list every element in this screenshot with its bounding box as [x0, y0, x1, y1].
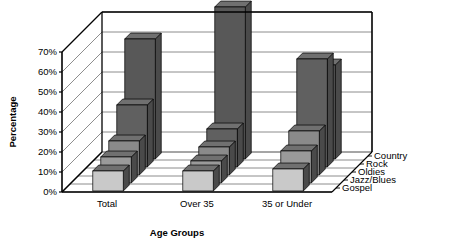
- y-tick-label: 30%: [38, 126, 58, 137]
- y-axis-title: Percentage: [7, 96, 18, 147]
- y-tick-label: 20%: [38, 146, 58, 157]
- bar-gospel-over-35: [183, 165, 220, 191]
- y-tick-label: 60%: [38, 66, 58, 77]
- bar-chart-3d: 0%10%20%30%40%50%60%70%TotalOver 3535 or…: [0, 0, 469, 245]
- chart-container: 0%10%20%30%40%50%60%70%TotalOver 3535 or…: [0, 0, 469, 245]
- y-tick-label: 10%: [38, 166, 58, 177]
- bar-gospel-total: [93, 165, 130, 191]
- x-axis-title: Age Groups: [150, 227, 204, 238]
- x-category-label: Over 35: [180, 198, 214, 209]
- y-tick-label: 50%: [38, 86, 58, 97]
- y-tick-label: 0%: [43, 186, 57, 197]
- series-label-gospel: Gospel: [342, 182, 372, 193]
- bar-gospel-35-or-under: [273, 163, 310, 191]
- y-tick-label: 70%: [38, 46, 58, 57]
- x-category-label: Total: [97, 198, 117, 209]
- y-tick-label: 40%: [38, 106, 58, 117]
- x-category-label: 35 or Under: [262, 198, 312, 209]
